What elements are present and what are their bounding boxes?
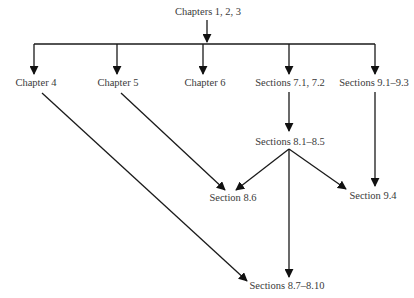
node-chapters-1-2-3: Chapters 1, 2, 3 — [175, 6, 241, 17]
node-sections-8-1-8-5: Sections 8.1–8.5 — [255, 136, 325, 147]
node-section-9-4: Section 9.4 — [349, 190, 397, 201]
node-chapter-4: Chapter 4 — [15, 77, 57, 88]
node-chapter-6: Chapter 6 — [184, 77, 225, 88]
node-sections-9-1-9-3: Sections 9.1–9.3 — [339, 77, 409, 88]
node-chapter-5: Chapter 5 — [97, 77, 138, 88]
node-sections-7-1-7-2: Sections 7.1, 7.2 — [255, 77, 325, 88]
node-sections-8-7-8-10: Sections 8.7–8.10 — [250, 280, 325, 291]
node-section-8-6: Section 8.6 — [209, 192, 256, 203]
edge-s8-1-to-s8-6 — [236, 149, 289, 190]
chapter-dependency-diagram: Chapters 1, 2, 3 Chapter 4 Chapter 5 Cha… — [0, 0, 414, 298]
edge-s8-1-to-s9-4 — [289, 149, 346, 189]
edge-ch5-to-s8-6 — [121, 93, 225, 190]
edge-ch4-to-s8-7 — [42, 93, 247, 281]
